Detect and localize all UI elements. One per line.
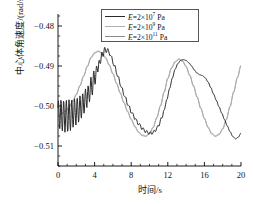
x-tick-label: 20 [231,170,251,180]
legend-swatch-2 [105,36,125,37]
legend: E=2×107 Pa E=2×109 Pa E=2×1011 Pa [101,9,199,42]
y-tick-label: −0.50 [16,101,54,111]
legend-item-1: E=2×109 Pa [102,21,198,31]
x-tick-label: 8 [121,170,141,180]
x-tick-label: 4 [85,170,105,180]
figure: 中心体角速度/(rad/s) 时间/s −0.48−0.49−0.50−0.51… [0,0,253,204]
y-tick-label: −0.48 [16,21,54,31]
legend-label-0: E=2×107 Pa [128,11,165,22]
x-axis-label: 时间/s [58,183,242,196]
legend-label-1: E=2×109 Pa [128,21,165,32]
y-tick-label: −0.49 [16,61,54,71]
x-tick-label: 0 [48,170,68,180]
x-tick-label: 12 [158,170,178,180]
y-axis-label: 中心体角速度/(rad/s) [13,0,26,100]
legend-item-2: E=2×1011 Pa [102,31,198,41]
x-tick-label: 16 [194,170,214,180]
legend-swatch-1 [105,26,125,27]
legend-swatch-0 [105,16,125,17]
legend-item-0: E=2×107 Pa [102,11,198,21]
legend-label-2: E=2×1011 Pa [128,31,167,42]
y-tick-label: −0.51 [16,141,54,151]
